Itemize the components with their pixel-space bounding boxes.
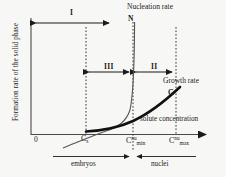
xtick-cs: Cs (81, 135, 89, 145)
xtick-cmax: Cnumax (169, 136, 189, 147)
y-axis-label: Formation rate of the solid phase (12, 12, 20, 132)
region-3-label: III (104, 63, 114, 71)
region-1-label: I (70, 9, 73, 17)
nucleation-rate-symbol: N (128, 15, 133, 23)
diagram-canvas (0, 0, 226, 177)
x-axis-label: solute concentration (140, 116, 198, 123)
xtick-cmax-sub: max (180, 140, 190, 146)
bracket-embryos-label: embryos (71, 161, 96, 168)
xtick-cs-sub: s (86, 138, 88, 144)
growth-rate-symbol: G (168, 89, 174, 97)
formation-rate-diagram: Formation rate of the solid phase 0 I II… (0, 0, 226, 177)
nucleation-rate-label: Nucleation rate (127, 3, 173, 11)
xtick-cmin-sub: min (137, 140, 146, 146)
xtick-cmin: Cnumin (126, 136, 145, 147)
region-2-label: II (151, 63, 157, 71)
bracket-nuclei-label: nuclei (151, 161, 169, 168)
axis-origin-label: 0 (34, 136, 38, 144)
growth-rate-label: Growth rate (163, 77, 199, 85)
